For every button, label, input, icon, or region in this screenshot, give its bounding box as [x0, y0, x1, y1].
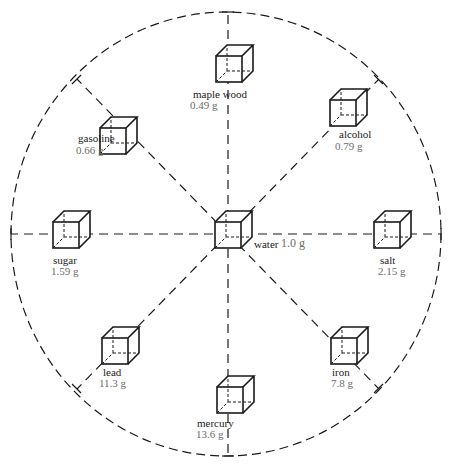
label-water: water [254, 239, 278, 250]
cube-iron [331, 327, 368, 364]
label-alcohol: alcohol [339, 129, 371, 140]
value-gasoline: 0.66 g [76, 145, 104, 156]
value-iron: 7.8 g [331, 378, 353, 389]
value-maple-wood: 0.49 g [190, 100, 218, 111]
value-mercury: 13.6 g [196, 429, 224, 440]
label-gasoline: gasoline [78, 133, 115, 144]
density-diagram [0, 0, 451, 464]
cube-maple-wood [216, 45, 253, 82]
value-lead: 11.3 g [99, 378, 126, 389]
value-sugar: 1.59 g [51, 266, 79, 277]
value-salt: 2.15 g [378, 266, 406, 277]
cube-sugar [53, 211, 90, 248]
cube-water [215, 211, 252, 248]
value-water: 1.0 g [281, 238, 305, 249]
value-alcohol: 0.79 g [335, 141, 363, 152]
cube-mercury [217, 376, 254, 413]
cube-salt [374, 211, 411, 248]
cube-lead [102, 327, 139, 364]
cube-alcohol [330, 89, 367, 126]
